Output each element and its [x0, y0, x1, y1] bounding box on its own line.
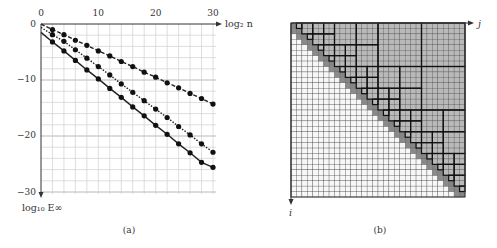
data-point [61, 32, 66, 37]
data-point [199, 160, 204, 165]
data-point [130, 90, 135, 95]
data-point [153, 75, 158, 80]
data-point [176, 141, 181, 146]
data-point [84, 43, 89, 48]
data-point [210, 101, 215, 106]
data-point [187, 91, 192, 96]
data-point [187, 132, 192, 137]
y-tick-0: 0 [30, 19, 36, 29]
x-axis-label: log₂ n [225, 18, 253, 29]
data-point [84, 56, 89, 61]
data-point [165, 80, 170, 85]
y-axis [39, 24, 44, 198]
data-point [50, 27, 55, 32]
data-point [142, 98, 147, 103]
data-point [119, 81, 124, 86]
data-point [107, 53, 112, 58]
i-axis-label: i [289, 207, 292, 218]
data-point [210, 165, 215, 170]
data-point [130, 104, 135, 109]
data-point [210, 150, 215, 155]
data-point [130, 64, 135, 69]
data-point [84, 67, 89, 72]
data-point [199, 96, 204, 101]
data-point [176, 85, 181, 90]
panel-a-grid [41, 24, 216, 194]
x-tick-30: 30 [207, 8, 219, 18]
data-point [142, 70, 147, 75]
data-point [119, 59, 124, 64]
data-point [107, 72, 112, 77]
data-point [50, 32, 55, 37]
data-point [50, 39, 55, 44]
x-tick-10: 10 [93, 8, 105, 18]
data-point [187, 150, 192, 155]
y-tick-neg30: −30 [17, 187, 36, 197]
j-axis-label: j [476, 18, 481, 29]
y-tick-neg10: −10 [17, 74, 36, 84]
figure: 0 10 20 30 0 −10 −20 −30 log₂ n log₁₀ E∞… [0, 0, 497, 248]
data-point [165, 115, 170, 120]
data-point [142, 113, 147, 118]
data-point [176, 124, 181, 129]
panel-a-series [41, 24, 216, 170]
data-point [61, 48, 66, 53]
data-point [119, 95, 124, 100]
data-point [61, 39, 66, 44]
panel-b-matrix: j i (b) [289, 18, 482, 235]
data-point [96, 64, 101, 69]
data-point [73, 47, 78, 52]
caption-b: (b) [374, 225, 387, 235]
y-axis-label: log₁₀ E∞ [22, 202, 62, 213]
data-point [153, 123, 158, 128]
panel-a-plot: 0 10 20 30 0 −10 −20 −30 log₂ n log₁₀ E∞… [17, 8, 253, 235]
data-point [96, 48, 101, 53]
data-point [73, 38, 78, 43]
x-axis [41, 22, 222, 27]
series-line-dashed [41, 24, 213, 104]
data-point [165, 132, 170, 137]
x-tick-20: 20 [150, 8, 162, 18]
data-point [96, 76, 101, 81]
data-point [73, 58, 78, 63]
data-point [199, 141, 204, 146]
caption-a: (a) [123, 225, 135, 235]
data-point [153, 107, 158, 112]
x-tick-0: 0 [38, 8, 44, 18]
data-point [107, 86, 112, 91]
y-tick-neg20: −20 [17, 130, 36, 140]
